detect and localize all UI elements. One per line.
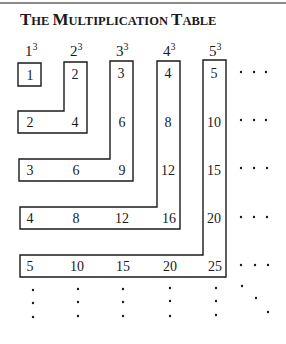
cell: 2 xyxy=(27,115,34,130)
cell: 25 xyxy=(208,259,222,274)
diagonal-continuation-dots xyxy=(241,285,269,313)
cell: 3 xyxy=(118,66,125,81)
cell: 1 xyxy=(27,68,34,83)
column-header: 13 xyxy=(25,41,38,59)
column-header: 23 xyxy=(70,41,83,59)
cell: 3 xyxy=(27,163,34,178)
cell: 15 xyxy=(116,259,130,274)
cell: 10 xyxy=(207,115,221,130)
title-part: T xyxy=(20,10,32,29)
column-continuation-dots xyxy=(32,287,217,318)
table-values: 1 2 3 4 5 2 4 6 8 10 3 6 9 12 15 4 8 12 … xyxy=(27,66,223,274)
top-rule xyxy=(0,2,286,4)
cell: 10 xyxy=(70,259,84,274)
multiplication-table-figure: THE MULTIPLICATION TABLE 13 23 33 43 53 … xyxy=(0,0,286,344)
cell: 8 xyxy=(165,115,172,130)
title-part: ABLE xyxy=(182,14,216,28)
cell: 6 xyxy=(119,115,126,130)
cell: 4 xyxy=(72,115,79,130)
column-header: 33 xyxy=(116,41,129,59)
cell: 15 xyxy=(207,163,221,178)
title-part: ULTIPLICATION xyxy=(69,14,171,28)
title-part: T xyxy=(171,10,183,29)
gnomon-4 xyxy=(20,61,180,229)
cell: 20 xyxy=(207,211,221,226)
figure-title: THE MULTIPLICATION TABLE xyxy=(20,10,216,29)
column-header: 43 xyxy=(163,41,176,59)
cell: 12 xyxy=(115,211,129,226)
cell: 8 xyxy=(73,211,80,226)
cell: 16 xyxy=(162,211,176,226)
row-continuation-dots xyxy=(240,71,269,266)
column-headers: 13 23 33 43 53 xyxy=(25,41,222,59)
cell: 5 xyxy=(27,259,34,274)
cell: 4 xyxy=(27,211,34,226)
column-header: 53 xyxy=(209,41,222,59)
cell: 12 xyxy=(161,163,175,178)
cell: 4 xyxy=(165,66,172,81)
cell: 6 xyxy=(73,163,80,178)
cell: 2 xyxy=(72,67,79,82)
title-part: M xyxy=(53,10,69,29)
cell: 5 xyxy=(211,66,218,81)
cell: 9 xyxy=(119,163,126,178)
title-part: HE xyxy=(31,14,52,28)
cell: 20 xyxy=(163,259,177,274)
